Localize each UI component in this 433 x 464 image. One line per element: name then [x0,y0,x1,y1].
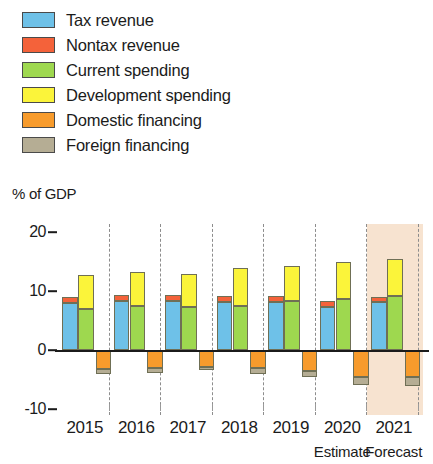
x-axis-label-2020: 2020 [324,418,361,438]
x-axis-label-2015: 2015 [66,418,103,438]
bar-segment-foreign-financing [353,377,369,385]
legend-swatch-development-spending [22,87,55,103]
bar-segment-domestic-financing [96,350,112,369]
x-axis-label-2019: 2019 [272,418,309,438]
bar-segment-foreign-financing [147,368,163,373]
bar-revenue-2017[interactable] [165,295,181,350]
x-axis-tick-mark [263,404,264,411]
y-axis-tick-label: -10 [0,400,46,418]
bar-segment-nontax-revenue [114,295,130,301]
legend-item-foreign-financing[interactable]: Foreign financing [22,134,231,156]
bar-segment-nontax-revenue [62,297,78,303]
bar-financing-2021[interactable] [405,350,421,386]
y-axis-tick-label: 0 [0,341,46,359]
legend-item-current-spending[interactable]: Current spending [22,59,231,81]
x-axis-label-2017: 2017 [169,418,206,438]
legend-label: Current spending [66,62,189,79]
legend-label: Nontax revenue [66,37,180,54]
bar-segment-development-spending [284,266,300,301]
group-separator [109,224,110,415]
bar-financing-2018[interactable] [250,350,266,374]
bar-segment-current-spending [130,306,146,350]
x-axis-tick-mark [212,404,213,411]
zero-axis-line [55,350,429,352]
bar-segment-tax-revenue [217,302,233,350]
bar-segment-development-spending [78,275,94,309]
bar-financing-2020[interactable] [353,350,369,385]
x-axis-tick-mark [109,404,110,411]
bar-revenue-2015[interactable] [62,297,78,350]
x-axis-tick-mark [160,404,161,411]
bar-spending-2016[interactable] [130,272,146,350]
bar-segment-development-spending [387,259,403,296]
chart-plot-area: 20100-10 [0,215,433,415]
bar-segment-tax-revenue [320,307,336,350]
bar-revenue-2016[interactable] [114,295,130,350]
bar-segment-domestic-financing [302,350,318,371]
group-separator [315,224,316,415]
group-separator [366,224,367,415]
legend-label: Tax revenue [66,12,154,29]
bar-revenue-2020[interactable] [320,301,336,350]
bar-segment-foreign-financing [405,377,421,386]
legend-label: Foreign financing [66,137,189,154]
x-axis-tick-mark [315,404,316,411]
bar-segment-nontax-revenue [371,297,387,302]
bar-spending-2019[interactable] [284,266,300,350]
bar-segment-current-spending [336,299,352,350]
legend-swatch-tax-revenue [22,12,55,28]
bar-segment-domestic-financing [199,350,215,367]
bar-segment-current-spending [78,309,94,350]
bar-financing-2015[interactable] [96,350,112,374]
y-axis-tick-mark [48,231,57,233]
y-axis-tick-label: 10 [0,282,46,300]
bar-segment-current-spending [387,296,403,350]
bar-spending-2018[interactable] [233,268,249,350]
bar-segment-tax-revenue [165,301,181,350]
x-axis-tick-mark [418,404,419,411]
bar-segment-domestic-financing [353,350,369,377]
bar-segment-tax-revenue [371,302,387,350]
annotation-estimate: Estimate [314,443,371,460]
bar-revenue-2018[interactable] [217,296,233,350]
x-axis-label-2016: 2016 [118,418,155,438]
bar-segment-development-spending [130,272,146,307]
bar-financing-2016[interactable] [147,350,163,373]
y-axis-tick-mark [48,408,57,410]
bar-segment-nontax-revenue [268,296,284,302]
legend-item-domestic-financing[interactable]: Domestic financing [22,109,231,131]
bar-spending-2021[interactable] [387,259,403,350]
bar-segment-foreign-financing [96,369,112,374]
legend-item-nontax-revenue[interactable]: Nontax revenue [22,34,231,56]
y-axis-tick-mark [48,290,57,292]
group-separator [418,224,419,415]
bar-spending-2017[interactable] [181,274,197,350]
legend-item-development-spending[interactable]: Development spending [22,84,231,106]
bar-spending-2020[interactable] [336,262,352,350]
legend-item-tax-revenue[interactable]: Tax revenue [22,9,231,31]
bar-segment-foreign-financing [302,371,318,377]
annotation-forecast: Forecast [365,443,422,460]
bar-revenue-2019[interactable] [268,296,284,350]
y-axis-tick-label: 20 [0,223,46,241]
bar-spending-2015[interactable] [78,275,94,350]
bar-segment-current-spending [233,306,249,350]
y-axis-title: % of GDP [12,185,76,202]
chart-legend: Tax revenueNontax revenueCurrent spendin… [22,9,231,156]
bar-segment-nontax-revenue [320,301,336,307]
bar-segment-tax-revenue [268,302,284,350]
legend-swatch-current-spending [22,62,55,78]
group-separator [263,224,264,415]
bar-segment-domestic-financing [250,350,266,368]
group-separator [212,224,213,415]
bar-segment-development-spending [181,274,197,307]
bar-segment-nontax-revenue [165,295,181,301]
bar-segment-current-spending [181,307,197,350]
x-axis-tick-mark [366,404,367,411]
bar-financing-2019[interactable] [302,350,318,377]
bar-segment-development-spending [336,262,352,299]
legend-label: Domestic financing [66,112,202,129]
bar-financing-2017[interactable] [199,350,215,370]
legend-label: Development spending [66,87,231,104]
bar-revenue-2021[interactable] [371,297,387,350]
